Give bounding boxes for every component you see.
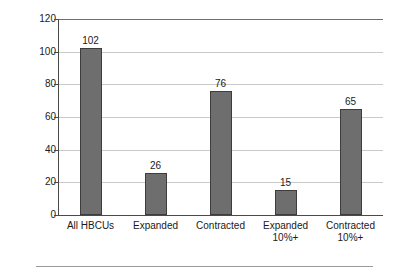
x-tick-label-line: Expanded [253, 220, 318, 232]
bar-value-label: 76 [215, 78, 226, 89]
x-tick-label-line: 10%+ [253, 232, 318, 244]
x-axis-tick-labels: All HBCUsExpandedContractedExpanded10%+C… [58, 220, 383, 256]
bar-chart-figure: Number of HBCUs 120100806040200 10226761… [0, 0, 393, 278]
bar-value-label: 15 [280, 177, 291, 188]
x-tick-label: Contracted [188, 220, 253, 232]
y-tick-label-60: 60 [30, 112, 56, 122]
x-tick-label: All HBCUs [58, 220, 123, 232]
x-tick-label: Expanded10%+ [253, 220, 318, 244]
bar[interactable] [210, 91, 232, 215]
plot-area: 10226761565 [58, 19, 383, 216]
y-tick-label-120: 120 [30, 14, 56, 24]
x-tick-label-line: 10%+ [318, 232, 383, 244]
bar-group: 102 [58, 19, 123, 215]
y-tick-label-100: 100 [30, 47, 56, 57]
x-tick-label-line: All HBCUs [58, 220, 123, 232]
bar-group: 65 [318, 19, 383, 215]
x-axis-line [58, 215, 383, 216]
bar-group: 26 [123, 19, 188, 215]
y-tick-label-0: 0 [30, 210, 56, 220]
y-tick-label-20: 20 [30, 177, 56, 187]
y-tick-label-80: 80 [30, 79, 56, 89]
bar[interactable] [145, 173, 167, 215]
bar[interactable] [80, 48, 102, 215]
bar-group: 15 [253, 19, 318, 215]
x-tick-label: Expanded [123, 220, 188, 232]
bar-value-label: 102 [82, 35, 99, 46]
y-axis-tick-labels: 120100806040200 [28, 0, 56, 278]
x-tick-label-line: Expanded [123, 220, 188, 232]
bar-value-label: 65 [345, 96, 356, 107]
x-tick-label-line: Contracted [188, 220, 253, 232]
bar-group: 76 [188, 19, 253, 215]
bar[interactable] [275, 190, 297, 215]
bar-value-label: 26 [150, 160, 161, 171]
y-tick-label-40: 40 [30, 145, 56, 155]
x-tick-label: Contracted10%+ [318, 220, 383, 244]
x-tick-label-line: Contracted [318, 220, 383, 232]
bottom-divider-rule [36, 266, 373, 267]
bar[interactable] [340, 109, 362, 215]
